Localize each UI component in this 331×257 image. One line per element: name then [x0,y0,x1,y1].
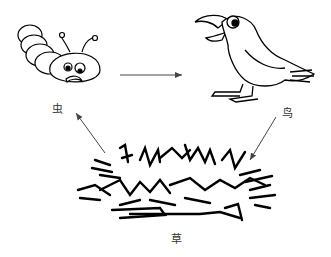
arrow-bird-to-grass [250,117,276,160]
label-grass: 草 [171,230,182,246]
label-insect: 虫 [52,100,63,116]
caterpillar-illustration [18,25,100,82]
arrow-grass-to-insect [76,113,105,153]
food-chain-diagram [0,0,331,257]
label-bird: 鸟 [282,104,293,120]
grass-illustration [78,145,275,220]
bird-illustration [195,15,314,102]
